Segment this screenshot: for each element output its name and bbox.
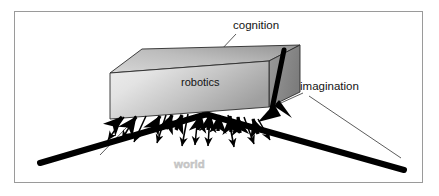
arrow-up	[253, 119, 258, 134]
label-cognition: cognition	[233, 19, 279, 31]
arrow-up	[218, 115, 219, 131]
diagram-canvas: cognition imagination robotics world	[0, 0, 439, 196]
arrow-up	[238, 117, 240, 133]
label-robotics: robotics	[181, 76, 220, 88]
ground-line-left	[40, 114, 207, 163]
diagram-graphic	[0, 0, 439, 196]
ground-line-right	[205, 114, 404, 170]
world-ground-line	[40, 114, 404, 170]
label-world: world	[174, 158, 205, 170]
label-imagination: imagination	[300, 80, 359, 92]
